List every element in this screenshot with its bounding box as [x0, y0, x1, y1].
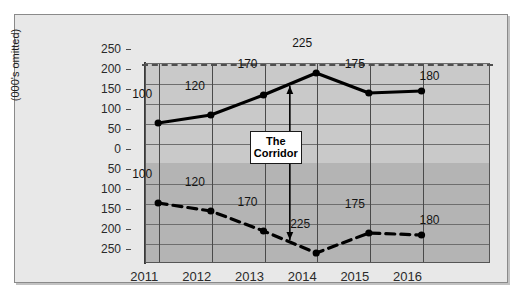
- y-tick-mark: [126, 229, 131, 230]
- y-tick-label: 250: [77, 42, 121, 56]
- data-label-lower: 120: [185, 175, 205, 189]
- gridline-vertical: [317, 64, 318, 262]
- y-tick-label: 200: [77, 222, 121, 236]
- gridline-vertical: [370, 64, 371, 262]
- data-label-lower: 175: [345, 197, 365, 211]
- data-label-upper: 175: [345, 57, 365, 71]
- y-tick-mark: [126, 249, 131, 250]
- gridline-vertical: [423, 64, 424, 262]
- data-label-lower: 225: [290, 217, 310, 231]
- y-tick-label: 0: [77, 142, 121, 156]
- data-label-lower: 180: [420, 213, 440, 227]
- chart-figure: (000's omitted) 250200150100500501001502…: [0, 0, 526, 297]
- y-tick-mark: [126, 129, 131, 130]
- y-tick-mark: [126, 69, 131, 70]
- data-label-upper: 225: [292, 36, 312, 50]
- y-tick-label: 150: [77, 82, 121, 96]
- data-label-upper: 120: [185, 79, 205, 93]
- data-label-lower: 170: [237, 195, 257, 209]
- gridline-vertical: [159, 64, 160, 262]
- chart-card: (000's omitted) 250200150100500501001502…: [14, 14, 508, 283]
- y-tick-mark: [126, 149, 131, 150]
- gridline-vertical: [212, 64, 213, 262]
- corridor-callout-line1: The: [253, 135, 299, 147]
- y-tick-mark: [126, 169, 131, 170]
- data-label-upper: 180: [420, 69, 440, 83]
- y-tick-mark: [126, 89, 131, 90]
- corridor-callout: The Corridor: [250, 131, 302, 164]
- data-label-upper: 170: [237, 57, 257, 71]
- data-label-lower: 100: [132, 167, 152, 181]
- y-tick-label: 200: [77, 62, 121, 76]
- y-tick-label: 50: [77, 122, 121, 136]
- y-tick-mark: [126, 49, 131, 50]
- y-tick-mark: [126, 189, 131, 190]
- x-tick-label: 2016: [373, 269, 443, 284]
- y-tick-mark: [126, 209, 131, 210]
- corridor-callout-line2: Corridor: [253, 147, 299, 159]
- y-tick-mark: [126, 109, 131, 110]
- y-tick-label: 50: [77, 162, 121, 176]
- zero-baseline: [142, 64, 493, 66]
- data-label-upper: 100: [132, 87, 152, 101]
- y-axis-title: (000's omitted): [9, 5, 21, 125]
- y-tick-label: 100: [77, 182, 121, 196]
- y-tick-label: 150: [77, 202, 121, 216]
- plot-area: [145, 63, 490, 263]
- y-tick-label: 100: [77, 102, 121, 116]
- y-tick-label: 250: [77, 242, 121, 256]
